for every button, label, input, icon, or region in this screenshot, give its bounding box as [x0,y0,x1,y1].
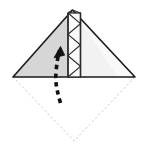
ghost-square-outline-group [13,77,135,141]
origami-diagram-svg [0,0,145,153]
origami-diagram-container: Square folded to a triangle with a narro… [0,0,145,153]
ghost-square-outline [13,77,135,141]
pleat-band-group [68,10,81,77]
